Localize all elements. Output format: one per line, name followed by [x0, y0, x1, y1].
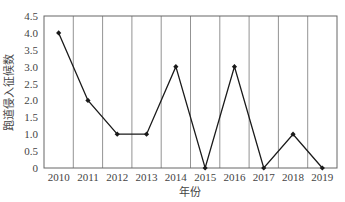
x-tick-label: 2011 — [77, 171, 99, 183]
y-tick-label: 1.0 — [24, 128, 38, 140]
x-tick-label: 2017 — [253, 171, 276, 183]
x-axis-ticks: 2010201120122013201420152016201720182019 — [48, 171, 334, 183]
x-tick-label: 2018 — [282, 171, 305, 183]
y-tick-label: 4.0 — [24, 27, 38, 39]
y-tick-label: 2.5 — [24, 78, 38, 90]
x-tick-label: 2014 — [165, 171, 188, 183]
x-tick-label: 2015 — [194, 171, 217, 183]
y-tick-label: 0.5 — [24, 145, 38, 157]
y-axis-ticks: 00.51.01.52.02.53.03.54.04.5 — [24, 10, 38, 174]
x-tick-label: 2013 — [136, 171, 159, 183]
x-tick-label: 2016 — [223, 171, 246, 183]
diamond-marker — [203, 165, 208, 170]
x-tick-label: 2012 — [106, 171, 128, 183]
x-tick-label: 2010 — [48, 171, 71, 183]
y-tick-label: 0 — [33, 162, 39, 174]
x-tick-label: 2019 — [311, 171, 334, 183]
y-tick-label: 1.5 — [24, 111, 38, 123]
y-axis-label: 跑道侵入征候数 — [2, 54, 16, 131]
line-chart: 00.51.01.52.02.53.03.54.04.5 20102011201… — [0, 0, 345, 202]
diamond-marker — [232, 64, 237, 69]
y-tick-label: 3.0 — [24, 61, 38, 73]
diamond-marker — [144, 132, 149, 137]
vertical-gridlines — [73, 16, 307, 168]
y-tick-label: 4.5 — [24, 10, 38, 22]
y-tick-label: 3.5 — [24, 44, 38, 56]
diamond-marker — [173, 64, 178, 69]
diamond-marker — [56, 30, 61, 35]
x-axis-label: 年份 — [179, 185, 201, 199]
y-tick-label: 2.0 — [24, 94, 38, 106]
